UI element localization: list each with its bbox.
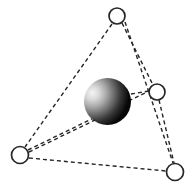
tetrahedral-diagram-svg xyxy=(0,0,192,186)
figure-canvas xyxy=(0,0,192,186)
central-sphere xyxy=(84,78,131,125)
vertex-bottom-left xyxy=(12,147,29,164)
vertex-bottom-right xyxy=(167,164,184,181)
vertex-right xyxy=(149,84,165,100)
vertex-top xyxy=(109,8,125,24)
